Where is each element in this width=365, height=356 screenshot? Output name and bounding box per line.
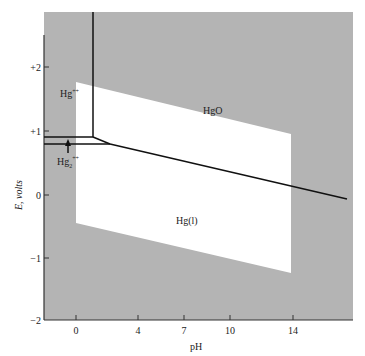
region-label-hgl: Hg(l) — [176, 215, 198, 227]
x-tick-label: 10 — [225, 325, 235, 336]
x-tick-label: 7 — [182, 325, 187, 336]
x-tick-label: 4 — [136, 325, 141, 336]
x-axis-title: pH — [190, 341, 202, 352]
y-tick-label: +2 — [30, 62, 41, 73]
pourbaix-diagram: +2 +1 0 −1 −2 0 4 7 10 14 pH E, volts Hg… — [0, 0, 365, 356]
x-tick-label: 14 — [288, 325, 298, 336]
region-label-hgo: HgO — [203, 105, 222, 116]
y-axis-title: E, volts — [13, 180, 24, 211]
y-tick-label: −2 — [30, 315, 41, 326]
y-tick-label: 0 — [36, 190, 41, 201]
y-tick-label: +1 — [30, 126, 41, 137]
y-tick-label: −1 — [30, 253, 41, 264]
x-tick-label: 0 — [74, 325, 79, 336]
